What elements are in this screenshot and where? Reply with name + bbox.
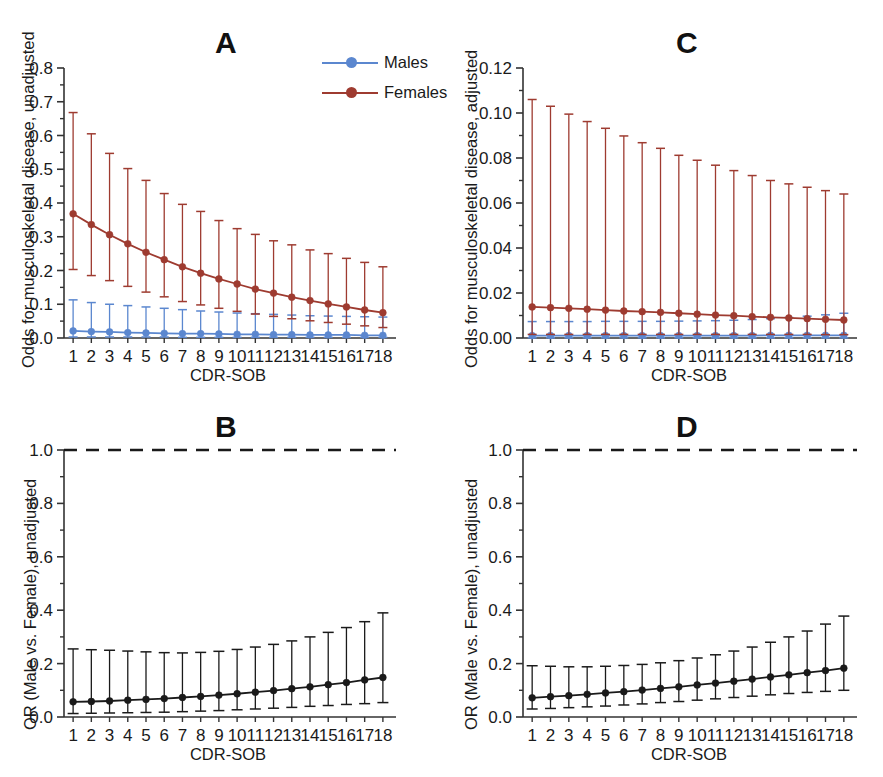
svg-text:6: 6 (619, 726, 628, 745)
svg-text:9: 9 (674, 726, 683, 745)
svg-text:0.02: 0.02 (479, 284, 512, 303)
panel-d: D OR (Male vs. Female), unadjusted CDR-S… (441, 390, 883, 777)
svg-text:11: 11 (247, 726, 265, 745)
legend-label-males: Males (384, 54, 428, 71)
svg-text:1: 1 (68, 347, 77, 366)
svg-text:13: 13 (743, 347, 762, 366)
svg-text:0.0: 0.0 (29, 329, 53, 348)
svg-text:2: 2 (87, 347, 96, 366)
svg-text:15: 15 (319, 726, 338, 745)
svg-text:3: 3 (564, 347, 573, 366)
svg-text:4: 4 (123, 347, 132, 366)
svg-text:8: 8 (196, 726, 205, 745)
svg-text:13: 13 (282, 726, 301, 745)
panel-b-plot: 0.00.20.40.60.81.01234567891011121314151… (0, 390, 441, 777)
svg-text:0.4: 0.4 (488, 601, 512, 620)
svg-text:7: 7 (178, 347, 187, 366)
svg-text:1: 1 (68, 726, 77, 745)
svg-text:12: 12 (264, 726, 283, 745)
svg-text:0.2: 0.2 (488, 655, 512, 674)
svg-text:2: 2 (87, 726, 96, 745)
svg-text:14: 14 (761, 726, 780, 745)
svg-text:0.4: 0.4 (29, 194, 53, 213)
panel-d-plot: 0.00.20.40.60.81.01234567891011121314151… (441, 390, 883, 777)
svg-text:18: 18 (373, 726, 392, 745)
svg-text:0.04: 0.04 (479, 239, 512, 258)
svg-text:1.0: 1.0 (488, 441, 512, 460)
svg-text:11: 11 (707, 347, 725, 366)
svg-text:1: 1 (527, 726, 536, 745)
svg-text:0.6: 0.6 (29, 127, 53, 146)
svg-text:2: 2 (546, 347, 555, 366)
svg-text:12: 12 (724, 726, 743, 745)
svg-text:7: 7 (637, 726, 646, 745)
svg-text:0.00: 0.00 (479, 329, 512, 348)
svg-text:2: 2 (546, 726, 555, 745)
svg-text:14: 14 (301, 347, 320, 366)
svg-text:8: 8 (656, 347, 665, 366)
panel-b: B OR (Male vs. Female), unadjusted CDR-S… (0, 390, 441, 777)
panel-c-plot: 0.000.020.040.060.080.100.12123456789101… (441, 0, 883, 390)
svg-text:9: 9 (674, 347, 683, 366)
svg-text:14: 14 (301, 726, 320, 745)
svg-text:0.8: 0.8 (29, 59, 53, 78)
svg-text:0.4: 0.4 (29, 601, 53, 620)
panel-c: C Odds for musculoskeletal disease, adju… (441, 0, 883, 390)
svg-text:13: 13 (282, 347, 301, 366)
svg-text:13: 13 (743, 726, 762, 745)
svg-text:14: 14 (761, 347, 780, 366)
svg-text:0.6: 0.6 (29, 548, 53, 567)
svg-text:5: 5 (601, 347, 610, 366)
svg-text:18: 18 (834, 726, 853, 745)
svg-text:7: 7 (178, 726, 187, 745)
figure-container: A Odds for musculoskeletal disease, unad… (0, 0, 883, 777)
svg-text:5: 5 (141, 726, 150, 745)
svg-text:0.2: 0.2 (29, 262, 53, 281)
svg-text:1: 1 (527, 347, 536, 366)
svg-text:0.06: 0.06 (479, 194, 512, 213)
svg-text:0.6: 0.6 (488, 548, 512, 567)
panel-a: A Odds for musculoskeletal disease, unad… (0, 0, 441, 390)
svg-text:0.8: 0.8 (488, 494, 512, 513)
svg-text:0.12: 0.12 (479, 59, 512, 78)
svg-text:11: 11 (247, 347, 265, 366)
svg-text:16: 16 (337, 347, 356, 366)
svg-text:0.8: 0.8 (29, 494, 53, 513)
svg-text:18: 18 (834, 347, 853, 366)
svg-text:0.0: 0.0 (488, 708, 512, 727)
svg-text:0.08: 0.08 (479, 149, 512, 168)
svg-text:9: 9 (214, 726, 223, 745)
svg-text:0.0: 0.0 (29, 708, 53, 727)
legend-label-females: Females (384, 84, 447, 101)
svg-text:5: 5 (601, 726, 610, 745)
svg-text:4: 4 (582, 347, 591, 366)
svg-text:17: 17 (816, 347, 835, 366)
svg-text:9: 9 (214, 347, 223, 366)
svg-text:5: 5 (141, 347, 150, 366)
svg-text:0.3: 0.3 (29, 228, 53, 247)
svg-text:0.10: 0.10 (479, 104, 512, 123)
svg-text:12: 12 (724, 347, 743, 366)
svg-text:18: 18 (373, 347, 392, 366)
svg-text:15: 15 (779, 347, 798, 366)
svg-text:10: 10 (688, 726, 707, 745)
svg-text:0.7: 0.7 (29, 93, 53, 112)
svg-text:1.0: 1.0 (29, 441, 53, 460)
svg-text:0.2: 0.2 (29, 655, 53, 674)
svg-text:4: 4 (582, 726, 591, 745)
svg-text:0.1: 0.1 (29, 295, 53, 314)
svg-text:17: 17 (355, 347, 374, 366)
svg-text:6: 6 (619, 347, 628, 366)
svg-text:12: 12 (264, 347, 283, 366)
svg-text:16: 16 (337, 726, 356, 745)
legend-marker-males (346, 57, 357, 68)
panel-a-plot: 0.00.10.20.30.40.50.60.70.81234567891011… (0, 0, 441, 390)
svg-text:6: 6 (159, 726, 168, 745)
svg-text:11: 11 (707, 726, 725, 745)
svg-text:3: 3 (105, 726, 114, 745)
svg-text:3: 3 (105, 347, 114, 366)
svg-text:8: 8 (656, 726, 665, 745)
svg-text:17: 17 (816, 726, 835, 745)
svg-text:15: 15 (779, 726, 798, 745)
svg-text:0.5: 0.5 (29, 160, 53, 179)
